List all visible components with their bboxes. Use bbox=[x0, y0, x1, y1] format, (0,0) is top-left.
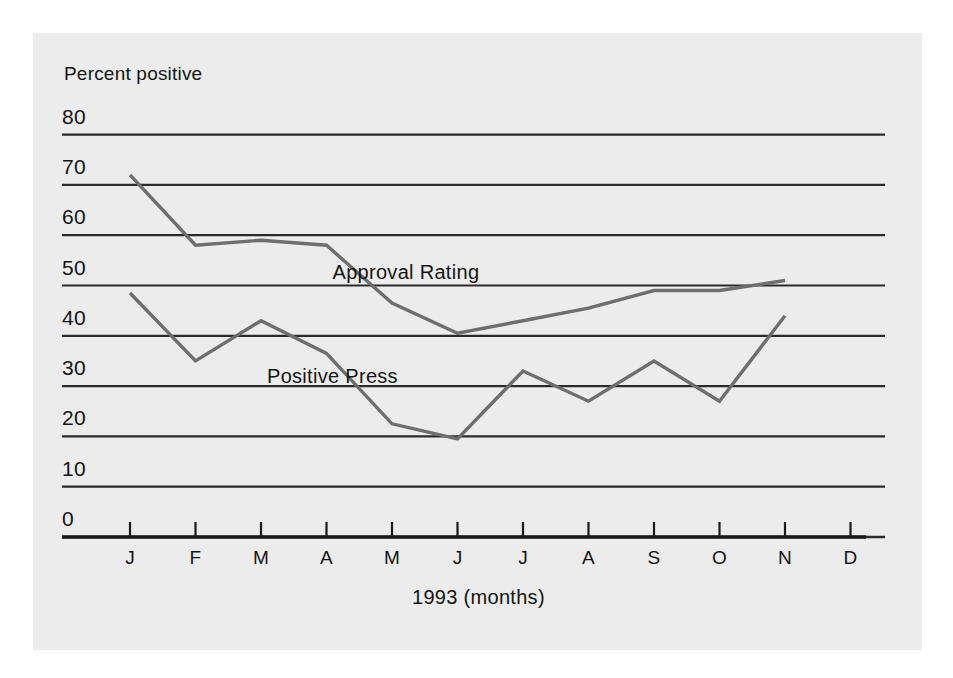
gridline-group bbox=[62, 135, 885, 537]
x-tick-label: N bbox=[770, 547, 800, 569]
y-tick-label: 40 bbox=[62, 306, 86, 330]
x-tick-label: J bbox=[508, 547, 538, 569]
x-tick-label: A bbox=[312, 547, 342, 569]
series-annotation-label: Positive Press bbox=[267, 365, 398, 388]
x-tick-label: J bbox=[115, 547, 145, 569]
y-tick-label: 80 bbox=[62, 105, 86, 129]
series-line-1 bbox=[130, 175, 785, 333]
series-line-2 bbox=[130, 293, 785, 439]
y-tick-label: 0 bbox=[62, 507, 74, 531]
series-line-group bbox=[130, 175, 785, 439]
y-tick-label: 50 bbox=[62, 256, 86, 280]
y-tick-label: 60 bbox=[62, 205, 86, 229]
x-tick-label: J bbox=[443, 547, 473, 569]
y-tick-label: 70 bbox=[62, 155, 86, 179]
y-tick-label: 20 bbox=[62, 406, 86, 430]
y-tick-label: 10 bbox=[62, 457, 86, 481]
y-tick-label: 30 bbox=[62, 356, 86, 380]
chart-plot-area bbox=[0, 0, 953, 678]
series-annotation-label: Approval Rating bbox=[333, 261, 480, 284]
x-tick-label: A bbox=[574, 547, 604, 569]
x-tick-label: M bbox=[246, 547, 276, 569]
x-tick-label: D bbox=[836, 547, 866, 569]
x-tick-label: M bbox=[377, 547, 407, 569]
x-tick-label: O bbox=[705, 547, 735, 569]
x-tick-label: F bbox=[181, 547, 211, 569]
x-axis-caption: 1993 (months) bbox=[412, 586, 545, 609]
x-tick-group bbox=[130, 522, 851, 536]
chart-figure: Percent positive 01020304050607080 JFMAM… bbox=[0, 0, 953, 678]
x-tick-label: S bbox=[639, 547, 669, 569]
